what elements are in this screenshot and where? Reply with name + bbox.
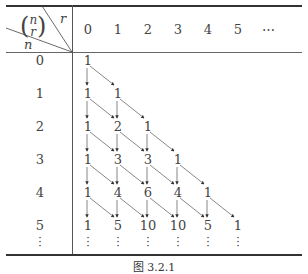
binomial-value: 4	[166, 186, 190, 200]
column-continuation-dots: ···	[203, 237, 213, 249]
binomial-value: 1	[76, 219, 100, 233]
column-continuation-dots: ···	[233, 237, 243, 249]
binomial-value: 1	[106, 87, 130, 101]
binomial-value: 3	[106, 153, 130, 167]
binomial-value: 1	[76, 120, 100, 134]
binomial-value: 3	[136, 153, 160, 167]
diagonal-arrow	[90, 198, 114, 217]
binomial-value: 1	[76, 54, 100, 68]
binomial-value: 10	[166, 219, 190, 233]
binomial-value: 1	[136, 120, 160, 134]
column-continuation-dots: ···	[113, 237, 123, 249]
row-variable-label: n	[24, 37, 32, 52]
diagonal-arrow	[120, 132, 144, 151]
column-continuation-dots: ···	[83, 237, 93, 249]
row-label-3: 3	[28, 153, 52, 167]
diagonal-arrow	[210, 198, 234, 217]
row-label-0: 0	[28, 54, 52, 68]
column-header-6: ⋯	[256, 23, 280, 37]
binomial-value: 6	[136, 186, 160, 200]
figure-caption: 图 3.2.1	[0, 258, 308, 274]
column-continuation-dots: ···	[173, 237, 183, 249]
binomial-value: 1	[166, 153, 190, 167]
column-header-2: 2	[136, 23, 160, 37]
binomial-value: 5	[196, 219, 220, 233]
diagonal-arrow	[120, 99, 144, 118]
diagonal-arrow	[180, 165, 204, 184]
binomial-value: 10	[136, 219, 160, 233]
column-continuation-dots: ···	[143, 237, 153, 249]
binomial-value: 1	[76, 87, 100, 101]
row-label-5: 5	[28, 219, 52, 233]
binomial-value: 5	[106, 219, 130, 233]
diagonal-arrow	[180, 198, 204, 217]
column-header-0: 0	[76, 23, 100, 37]
binomial-value: 1	[196, 186, 220, 200]
diagonal-arrow	[120, 198, 144, 217]
column-header-4: 4	[196, 23, 220, 37]
column-header-1: 1	[106, 23, 130, 37]
diagonal-arrow	[150, 132, 174, 151]
diagonal-arrow	[150, 198, 174, 217]
binomial-value: 1	[226, 219, 250, 233]
binomial-value: 1	[76, 153, 100, 167]
row-label-2: 2	[28, 120, 52, 134]
diagonal-arrow	[90, 132, 114, 151]
row-label-1: 1	[28, 87, 52, 101]
diagonal-arrow	[90, 99, 114, 118]
column-variable-label: r	[60, 11, 66, 26]
binomial-symbol: (nr)	[20, 12, 46, 40]
row-label-4: 4	[28, 186, 52, 200]
column-header-5: 5	[226, 23, 250, 37]
diagonal-arrow	[90, 165, 114, 184]
binomial-value: 4	[106, 186, 130, 200]
diagonal-arrow	[90, 66, 114, 85]
binomial-value: 1	[76, 186, 100, 200]
diagonal-arrow	[120, 165, 144, 184]
row-continuation-dots: ···	[35, 237, 45, 249]
diagonal-arrow	[150, 165, 174, 184]
column-header-3: 3	[166, 23, 190, 37]
binomial-value: 2	[106, 120, 130, 134]
